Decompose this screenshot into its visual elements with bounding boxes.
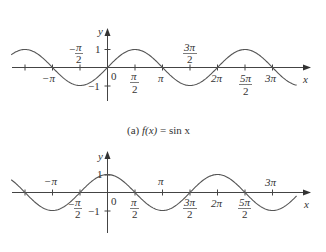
x-tick-label-five-pi-half: 5π 2 [238, 196, 251, 220]
svg-text:2: 2 [243, 85, 249, 97]
svg-text:2: 2 [75, 208, 81, 220]
x-tick-label-two-pi: 2π [211, 72, 223, 84]
x-tick-label-neg-pi: −π [42, 72, 55, 84]
svg-text:−: − [68, 198, 74, 210]
x-tick-label-pi-half: π 2 [130, 70, 139, 95]
x-tick-label-neg-pi-half: − π 2 [69, 41, 83, 65]
y-axis-label: y [97, 25, 103, 37]
svg-text:π: π [76, 41, 82, 53]
sine-graph: y 1 −1 0 −π − π 2 π 2 π 3π 2 2π 5π 2 3π … [11, 25, 311, 101]
svg-text:π: π [131, 70, 137, 82]
cosine-graph: y 1 −1 0 −π − π 2 π 2 π 3π 2 2π 5π 2 3π … [11, 150, 311, 233]
x-tick-label-three-pi: 3π [264, 176, 277, 188]
x-axis-label: x [302, 73, 308, 85]
x-tick-label-pi: π [158, 72, 164, 84]
x-tick-label-three-pi-half: 3π 2 [183, 41, 197, 65]
x-axis-label: x [303, 198, 309, 210]
svg-text:2: 2 [187, 208, 193, 220]
x-tick-label-five-pi-half: 5π 2 [239, 72, 252, 97]
x-axis-arrow-icon [303, 190, 311, 196]
x-tick-label-three-pi-half: 3π 2 [183, 196, 197, 220]
x-tick-label-three-pi: 3π [264, 72, 277, 84]
y-tick-label-1: 1 [97, 168, 103, 180]
figure: y 1 −1 0 −π − π 2 π 2 π 3π 2 2π 5π 2 3π … [0, 0, 326, 252]
svg-text:2: 2 [76, 53, 82, 65]
x-tick-label-neg-pi: −π [44, 175, 57, 187]
y-tick-label-neg1: −1 [88, 80, 100, 92]
svg-text:3π: 3π [183, 41, 196, 53]
y-axis-label: y [97, 150, 103, 162]
x-tick-label-neg-pi-half: − π 2 [68, 196, 82, 220]
svg-text:3π: 3π [183, 196, 196, 208]
svg-text:5π: 5π [239, 196, 251, 208]
svg-text:5π: 5π [240, 72, 252, 84]
svg-text:π: π [75, 196, 81, 208]
origin-label: 0 [111, 195, 117, 207]
y-tick-label-1: 1 [95, 43, 101, 55]
y-axis-arrow-icon [105, 151, 111, 159]
svg-text:2: 2 [132, 83, 138, 95]
x-tick-label-pi-half: π 2 [130, 196, 139, 220]
svg-text:2: 2 [242, 208, 248, 220]
origin-label: 0 [111, 70, 117, 82]
y-tick-label-neg1: −1 [88, 205, 100, 217]
svg-text:π: π [131, 196, 137, 208]
svg-text:2: 2 [132, 208, 138, 220]
x-tick-label-pi: π [158, 175, 164, 187]
caption-a: (a) f(x) = sin x [127, 124, 191, 137]
x-axis-arrow-icon [303, 65, 311, 71]
x-tick-label-two-pi: 2π [211, 197, 223, 209]
svg-text:−: − [69, 43, 75, 55]
y-axis-arrow-icon [105, 28, 111, 36]
svg-text:2: 2 [187, 53, 193, 65]
